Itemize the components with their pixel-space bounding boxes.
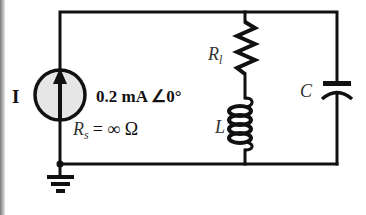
source-label: I <box>12 86 19 107</box>
circuit-diagram: I 0.2 mA ∠0° Rs= ∞ Ω Rl L C <box>0 0 366 215</box>
capacitor-label: C <box>300 81 313 101</box>
inductor-icon <box>229 98 252 150</box>
inductor-label: L <box>214 117 225 137</box>
top-wire <box>60 12 337 84</box>
ground-icon <box>47 164 74 193</box>
resistor-label: Rl <box>207 44 223 67</box>
current-source-icon <box>35 68 85 120</box>
resistor-icon <box>237 22 255 74</box>
source-value: 0.2 mA ∠0° <box>96 87 182 106</box>
source-resistance: Rs= ∞ Ω <box>72 119 138 142</box>
